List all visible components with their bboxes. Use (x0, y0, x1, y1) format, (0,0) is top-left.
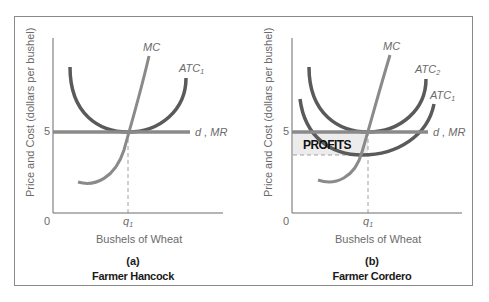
panel-b-x-axis-label: Bushels of Wheat (335, 233, 421, 245)
panel-a-x-axis-label: Bushels of Wheat (96, 233, 182, 245)
panel-b-price-tick: 5 (283, 125, 289, 137)
panel-a-atc1-label: ATC1 (179, 62, 204, 75)
panel-b-letter: (b) (312, 255, 432, 267)
panel-b-atc2-curve (309, 67, 426, 132)
panel-b-atc2-label: ATC2 (415, 63, 440, 76)
panel-b-title: Farmer Cordero (302, 270, 442, 282)
panel-b-profits-label: PROFITS (303, 138, 351, 152)
panel-b-atc1-label: ATC1 (430, 89, 455, 102)
panel-a-origin-label: 0 (44, 215, 50, 227)
panel-a-y-axis-label: Price and Cost (dollars per bushel) (24, 28, 36, 197)
panel-b-origin-label: 0 (283, 215, 289, 227)
panel-b-y-axis-label: Price and Cost (dollars per bushel) (262, 28, 274, 197)
panel-a-mc-label: MC (143, 41, 160, 53)
panel-b-q1-label: q1 (363, 215, 373, 228)
panel-a-letter: (a) (73, 255, 193, 267)
panel-a-title: Farmer Hancock (63, 270, 203, 282)
panel-a-demand-label: d , MR (195, 126, 227, 138)
panel-b-demand-label: d , MR (433, 126, 465, 138)
panel-a-price-tick: 5 (44, 125, 50, 137)
panel-a-q1-label: q1 (123, 215, 133, 228)
panel-a-atc1-curve (70, 67, 186, 132)
panel-b-mc-label: MC (383, 40, 400, 52)
